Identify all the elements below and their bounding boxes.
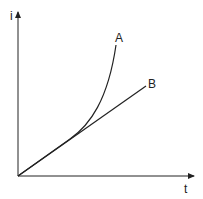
curve-a	[18, 45, 116, 176]
y-axis-label: i	[10, 9, 13, 23]
diagram-canvas: i t A B	[0, 0, 203, 199]
x-axis-label: t	[184, 182, 188, 196]
curve-b-label: B	[148, 77, 156, 91]
curve-a-label: A	[115, 31, 123, 45]
